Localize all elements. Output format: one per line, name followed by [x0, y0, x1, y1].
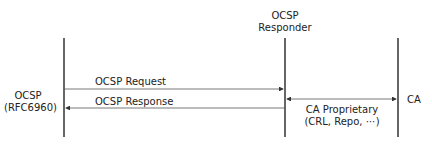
- ca-label-line1: CA: [404, 94, 424, 106]
- client-label-line2: (RFC6960): [4, 102, 52, 114]
- ca-proprietary-label: CA Proprietary (CRL, Repo, ⋯): [300, 104, 384, 128]
- response-label: OCSP Response: [95, 96, 173, 108]
- client-label-line1: OCSP: [4, 90, 52, 102]
- responder-label: OCSP Responder: [255, 10, 315, 34]
- request-label: OCSP Request: [95, 76, 166, 88]
- ocsp-sequence-diagram: OCSP (RFC6960) OCSP Responder CA OCSP Re…: [0, 0, 432, 146]
- ca-label: CA: [404, 94, 424, 106]
- ca-proprietary-label-line2: (CRL, Repo, ⋯): [300, 116, 384, 128]
- responder-label-line2: Responder: [255, 22, 315, 34]
- responder-label-line1: OCSP: [255, 10, 315, 22]
- ca-proprietary-label-line1: CA Proprietary: [300, 104, 384, 116]
- client-label: OCSP (RFC6960): [4, 90, 52, 114]
